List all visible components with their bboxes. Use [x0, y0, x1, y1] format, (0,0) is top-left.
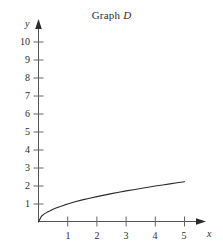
y-tick-label-4: 4 — [8, 144, 30, 155]
x-tick-label-3: 3 — [119, 230, 133, 241]
x-axis-arrow-icon — [196, 218, 206, 225]
curve-sqrt-x — [39, 182, 185, 222]
y-tick-label-7: 7 — [8, 90, 30, 101]
y-tick-label-1: 1 — [8, 198, 30, 209]
y-tick-label-3: 3 — [8, 162, 30, 173]
y-tick-label-2: 2 — [8, 180, 30, 191]
x-tick-label-4: 4 — [148, 230, 162, 241]
y-tick-label-10: 10 — [8, 36, 30, 47]
x-tick-label-2: 2 — [90, 230, 104, 241]
y-axis-arrow-icon — [35, 19, 42, 29]
y-axis-label: y — [25, 18, 29, 29]
y-tick-label-8: 8 — [8, 72, 30, 83]
x-tick-label-5: 5 — [177, 230, 191, 241]
graph-figure: Graph D — [0, 0, 223, 251]
plot-area — [0, 0, 223, 251]
y-tick-label-9: 9 — [8, 54, 30, 65]
x-axis-label: x — [207, 228, 211, 239]
x-tick-label-1: 1 — [61, 230, 75, 241]
y-tick-label-6: 6 — [8, 108, 30, 119]
y-tick-label-5: 5 — [8, 126, 30, 137]
